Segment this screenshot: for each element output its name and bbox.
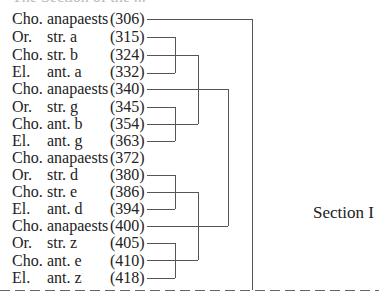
part: ant. d bbox=[47, 200, 83, 217]
line-number: (363) bbox=[110, 132, 145, 149]
speaker: El. bbox=[12, 269, 30, 286]
part: str. b bbox=[47, 46, 78, 63]
part: str. z bbox=[47, 234, 77, 251]
speaker: Or. bbox=[12, 234, 32, 251]
connector-363 bbox=[147, 141, 175, 142]
connector-405 bbox=[147, 243, 175, 244]
speaker: Cho. bbox=[12, 10, 43, 27]
connector-315 bbox=[147, 37, 175, 38]
part: ant. e bbox=[47, 252, 82, 269]
connector-394 bbox=[147, 209, 175, 210]
connector-332 bbox=[147, 73, 175, 74]
connector-354 bbox=[147, 124, 198, 125]
speaker: El. bbox=[12, 200, 30, 217]
dashed-divider bbox=[0, 289, 383, 292]
top-cut-text: The Section of the ... bbox=[12, 0, 146, 6]
speaker: Or. bbox=[12, 166, 32, 183]
line-number: (345) bbox=[110, 98, 145, 115]
part: ant. a bbox=[47, 63, 82, 80]
speaker: El. bbox=[12, 63, 30, 80]
speaker: Cho. bbox=[12, 80, 43, 97]
part: ant. b bbox=[47, 115, 83, 132]
line-number: (380) bbox=[110, 166, 145, 183]
speaker: Or. bbox=[12, 28, 32, 45]
line-number: (315) bbox=[110, 28, 145, 45]
section-label: Section I bbox=[313, 203, 374, 223]
bracket-345-363 bbox=[175, 107, 176, 141]
speaker: Cho. bbox=[12, 183, 43, 200]
section-bracket bbox=[252, 19, 253, 290]
bracket-340-400 bbox=[228, 89, 229, 226]
line-number: (410) bbox=[110, 252, 145, 269]
connector-410 bbox=[147, 260, 198, 261]
part: anapaests bbox=[47, 149, 108, 166]
part: anapaests bbox=[47, 217, 108, 234]
bracket-405-418 bbox=[175, 243, 176, 278]
line-number: (405) bbox=[110, 234, 145, 251]
line-number: (332) bbox=[110, 63, 145, 80]
line-number: (372) bbox=[110, 149, 145, 166]
speaker: Cho. bbox=[12, 46, 43, 63]
connector-345 bbox=[147, 107, 175, 108]
speaker: Cho. bbox=[12, 149, 43, 166]
speaker: El. bbox=[12, 132, 30, 149]
part: str. d bbox=[47, 166, 78, 183]
speaker: Or. bbox=[12, 98, 32, 115]
part: str. e bbox=[47, 183, 77, 200]
speaker: Cho. bbox=[12, 217, 43, 234]
bracket-386-410 bbox=[198, 192, 199, 260]
line-number: (340) bbox=[110, 80, 145, 97]
speaker: Cho. bbox=[12, 115, 43, 132]
line-number: (324) bbox=[110, 46, 145, 63]
part: anapaests bbox=[47, 10, 108, 27]
line-number: (354) bbox=[110, 115, 145, 132]
connector-324 bbox=[147, 55, 198, 56]
connector-306 bbox=[147, 19, 252, 20]
speaker: Cho. bbox=[12, 252, 43, 269]
line-number: (400) bbox=[110, 217, 145, 234]
connector-380 bbox=[147, 175, 175, 176]
connector-400 bbox=[147, 226, 228, 227]
line-number: (386) bbox=[110, 183, 145, 200]
line-number: (394) bbox=[110, 200, 145, 217]
part: ant. z bbox=[47, 269, 82, 286]
line-number: (418) bbox=[110, 269, 145, 286]
part: str. g bbox=[47, 98, 78, 115]
line-number: (306) bbox=[110, 10, 145, 27]
connector-340 bbox=[147, 89, 228, 90]
part: anapaests bbox=[47, 80, 108, 97]
part: ant. g bbox=[47, 132, 83, 149]
connector-386 bbox=[147, 192, 198, 193]
connector-418 bbox=[147, 278, 175, 279]
part: str. a bbox=[47, 28, 77, 45]
